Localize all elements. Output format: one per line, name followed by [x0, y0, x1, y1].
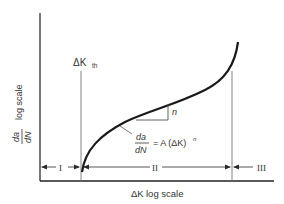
equation-leader-line	[120, 126, 132, 134]
crack-growth-curve	[82, 42, 238, 172]
crack-growth-diagram: n da dN = A (ΔK) n ΔK th I II III ΔK log…	[0, 0, 284, 204]
x-axis-label: ΔK log scale	[131, 188, 184, 199]
svg-text:th: th	[92, 62, 98, 69]
svg-text:log scale: log scale	[14, 84, 24, 120]
slope-label: n	[172, 107, 177, 117]
region-iii-label: III	[257, 163, 266, 173]
svg-text:da: da	[136, 132, 146, 142]
svg-text:n: n	[193, 136, 197, 142]
region-ii-label: II	[152, 163, 158, 173]
region-i-label: I	[59, 163, 62, 173]
y-axis-fraction: da dN	[11, 129, 33, 144]
svg-text:log scale: log scale	[146, 188, 184, 199]
threshold-label: ΔK th	[73, 57, 98, 69]
svg-text:= A (ΔK): = A (ΔK)	[153, 138, 186, 148]
svg-text:da: da	[11, 132, 21, 142]
svg-text:dN: dN	[23, 131, 33, 143]
y-axis-label: log scale	[14, 84, 24, 120]
svg-text:dN: dN	[135, 145, 147, 155]
svg-text:ΔK: ΔK	[131, 188, 144, 199]
paris-law-equation: da dN = A (ΔK) n	[135, 132, 197, 155]
svg-text:ΔK: ΔK	[73, 57, 87, 68]
